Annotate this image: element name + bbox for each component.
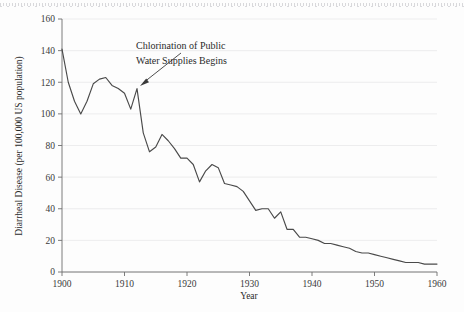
chart-figure: 020406080100120140160 190019101920193019… bbox=[0, 0, 464, 312]
y-axis-tick-label: 160 bbox=[41, 14, 56, 24]
data-series-line bbox=[62, 49, 437, 264]
annotation-text-line2: Water Supplies Begins bbox=[136, 55, 227, 66]
x-axis-tick-label: 1920 bbox=[178, 279, 197, 289]
y-axis-tick-labels: 020406080100120140160 bbox=[41, 14, 56, 277]
y-axis-tick-label: 0 bbox=[50, 267, 55, 277]
x-axis-title: Year bbox=[240, 291, 258, 301]
y-axis-tick-label: 40 bbox=[46, 204, 56, 214]
x-axis-tick-label: 1930 bbox=[240, 279, 259, 289]
x-axis-tick-labels: 1900191019201930194019501960 bbox=[53, 279, 447, 289]
y-axis-tick-label: 100 bbox=[41, 109, 56, 119]
x-axis-tick-label: 1910 bbox=[115, 279, 134, 289]
annotation-text-line1: Chlorination of Public bbox=[136, 40, 226, 51]
y-axis-title: Diarrheal Disease (per 100,000 US popula… bbox=[14, 56, 25, 235]
y-axis-ticks bbox=[58, 19, 62, 272]
x-axis-ticks bbox=[62, 272, 437, 276]
x-axis-tick-label: 1900 bbox=[53, 279, 72, 289]
chart-plot-area: 020406080100120140160 190019101920193019… bbox=[0, 0, 464, 312]
x-axis-tick-label: 1940 bbox=[303, 279, 322, 289]
y-axis-tick-label: 60 bbox=[46, 173, 56, 183]
y-axis-tick-label: 20 bbox=[46, 236, 56, 246]
x-axis-tick-label: 1960 bbox=[428, 279, 447, 289]
y-axis-tick-label: 120 bbox=[41, 78, 56, 88]
y-axis-tick-label: 140 bbox=[41, 46, 56, 56]
x-axis-tick-label: 1950 bbox=[365, 279, 384, 289]
y-axis-tick-label: 80 bbox=[46, 141, 56, 151]
gridlines bbox=[62, 19, 437, 272]
